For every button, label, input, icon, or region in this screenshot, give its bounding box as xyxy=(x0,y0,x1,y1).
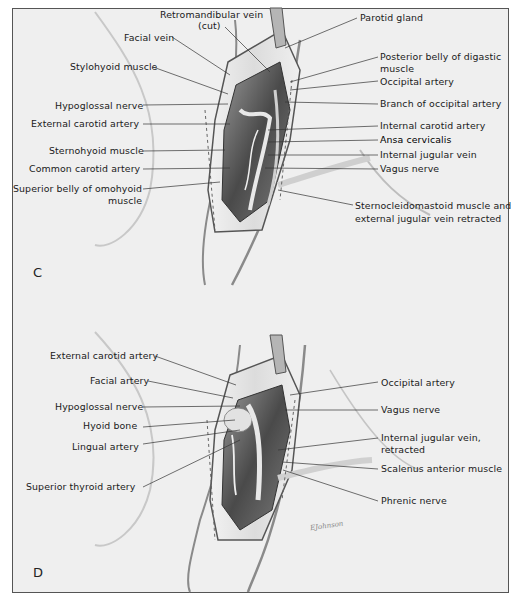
label-hyoid-bone: Hyoid bone xyxy=(83,420,137,431)
label-retromandibular-vein: Retromandibular vein xyxy=(160,9,263,20)
label-superior-belly-omohyoid: Superior belly of omohyoid xyxy=(13,183,142,194)
label-retracted: retracted xyxy=(381,444,425,455)
label-posterior-belly-digastic-muscle: muscle xyxy=(380,63,414,74)
label-vagus-nerve: Vagus nerve xyxy=(380,163,439,174)
label-common-carotid-artery: Common carotid artery xyxy=(29,163,140,174)
panel-letter-c: C xyxy=(33,265,42,280)
label-phrenic-nerve: Phrenic nerve xyxy=(381,495,447,506)
label-occipital-artery: Occipital artery xyxy=(380,76,454,87)
label-posterior-belly-digastic: Posterior belly of digastic xyxy=(380,51,501,62)
panel-letter-d: D xyxy=(33,565,43,580)
label-retromandibular-vein-cut: (cut) xyxy=(198,20,221,31)
retracted-vein xyxy=(278,158,370,185)
jaw-contour-d xyxy=(95,332,154,546)
label-scalenus-anterior-muscle: Scalenus anterior muscle xyxy=(381,463,502,474)
label-external-carotid-artery: External carotid artery xyxy=(31,118,139,129)
label-internal-carotid-artery: Internal carotid artery xyxy=(380,120,485,131)
label-parotid-gland: Parotid gland xyxy=(360,12,423,23)
label-superior-thyroid-artery: Superior thyroid artery xyxy=(26,481,135,492)
label-facial-artery: Facial artery xyxy=(90,375,149,386)
label-hypoglossal-nerve: Hypoglossal nerve xyxy=(55,100,143,111)
label-ansa-cervicalis: Ansa cervicalis xyxy=(380,134,451,145)
label-vagus-nerve-d: Vagus nerve xyxy=(381,404,440,415)
label-sternocleidomastoid-muscle: Sternocleidomastoid muscle and xyxy=(355,200,511,211)
label-external-jugular-vein-retracted: external jugular vein retracted xyxy=(355,213,501,224)
anatomical-illustration xyxy=(0,0,518,600)
label-hypoglossal-nerve-d: Hypoglossal nerve xyxy=(55,401,143,412)
label-occipital-artery-d: Occipital artery xyxy=(381,377,455,388)
label-facial-vein: Facial vein xyxy=(124,32,174,43)
label-stylohyoid-muscle: Stylohyoid muscle xyxy=(70,61,157,72)
label-external-carotid-artery-d: External carotid artery xyxy=(50,350,158,361)
label-internal-jugular-vein-d: Internal jugular vein, xyxy=(381,432,481,443)
panel-c-illustration xyxy=(95,8,430,285)
panel-d-illustration xyxy=(95,332,420,592)
hyoid-bone-shape xyxy=(224,408,252,432)
label-sternohyoid-muscle: Sternohyoid muscle xyxy=(49,145,144,156)
label-superior-belly-omohyoid-muscle: muscle xyxy=(108,195,142,206)
label-branch-occipital-artery: Branch of occipital artery xyxy=(380,98,501,109)
label-lingual-artery: Lingual artery xyxy=(72,441,139,452)
label-internal-jugular-vein: Internal jugular vein xyxy=(380,149,477,160)
